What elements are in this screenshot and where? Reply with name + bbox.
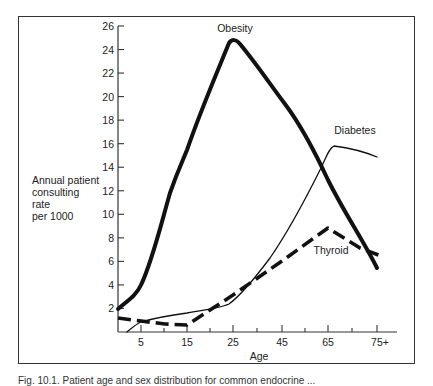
y-tick-label: 4 bbox=[108, 279, 114, 291]
y-tick-label: 16 bbox=[102, 138, 114, 150]
x-tick-label: 75+ bbox=[371, 336, 389, 348]
series-diabetes-line bbox=[127, 146, 377, 332]
y-tick-label: 20 bbox=[102, 91, 114, 103]
figure-caption: Fig. 10.1. Patient age and sex distribut… bbox=[18, 375, 315, 386]
y-tick-label: 18 bbox=[102, 114, 114, 126]
y-tick-label: 10 bbox=[102, 208, 114, 220]
y-tick-label: 14 bbox=[102, 161, 114, 173]
y-tick-label: 12 bbox=[102, 185, 114, 197]
x-tick-label: 5 bbox=[138, 336, 144, 348]
y-tick-label: 8 bbox=[108, 232, 114, 244]
x-tick-label: 65 bbox=[322, 336, 334, 348]
x-tick-label: 45 bbox=[276, 336, 288, 348]
label-obesity: Obesity bbox=[217, 22, 253, 34]
x-tick-label: 25 bbox=[227, 336, 239, 348]
label-diabetes: Diabetes bbox=[334, 124, 375, 136]
y-tick-label: 24 bbox=[102, 44, 114, 56]
y-tick-label: 22 bbox=[102, 67, 114, 79]
series-obesity-line bbox=[118, 40, 377, 309]
y-tick-labels: 2468101214161820222426 bbox=[102, 20, 114, 314]
y-axis-title: Annual patient consulting rate per 1000 bbox=[32, 174, 99, 222]
y-tick-label: 6 bbox=[108, 255, 114, 267]
label-thyroid: Thyroid bbox=[313, 244, 348, 256]
y-tick-label: 2 bbox=[108, 302, 114, 314]
x-tick-labels: 51525456575+ bbox=[138, 336, 389, 348]
x-axis-title: Age bbox=[250, 350, 269, 362]
y-ticks bbox=[118, 26, 124, 308]
y-tick-label: 26 bbox=[102, 20, 114, 32]
x-tick-label: 15 bbox=[181, 336, 193, 348]
